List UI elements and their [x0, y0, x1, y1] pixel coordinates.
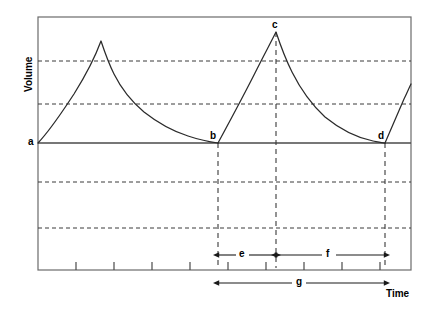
data-curves	[38, 32, 411, 143]
gridlines-horizontal	[38, 61, 411, 228]
x-axis-ticks	[76, 262, 380, 270]
dropline-group	[218, 32, 385, 268]
interval-label-e: e	[239, 249, 245, 259]
curve-cycle-2	[218, 32, 385, 143]
interval-label-f: f	[326, 249, 329, 259]
curve-cycle-3-partial	[385, 84, 411, 143]
figure-root: Volume Time a b c d e f g	[0, 0, 433, 312]
point-label-c: c	[272, 20, 278, 30]
point-label-d: d	[378, 131, 384, 141]
chart-svg	[0, 0, 433, 312]
y-axis-label: Volume	[24, 57, 34, 92]
point-label-b: b	[210, 131, 216, 141]
interval-label-g: g	[296, 277, 302, 287]
x-axis-label: Time	[386, 289, 409, 299]
point-label-a: a	[28, 137, 34, 147]
curve-cycle-1	[38, 41, 218, 143]
